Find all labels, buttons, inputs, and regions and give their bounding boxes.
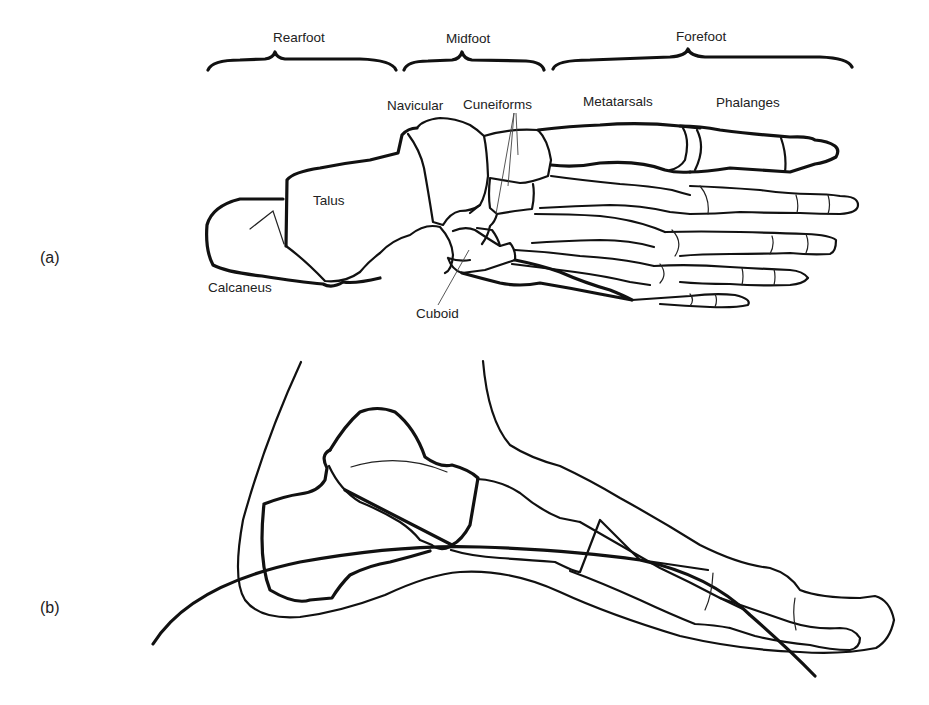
- bone-talus: [286, 128, 417, 246]
- metatarsal-5: [462, 260, 632, 300]
- foot-anatomy-diagram: [0, 0, 929, 705]
- brace-forefoot: [553, 49, 852, 69]
- brace-midfoot: [404, 52, 544, 70]
- metatarsal-2: [540, 176, 690, 214]
- phalanx-joint-lines: [705, 573, 796, 630]
- bone-metatarsals-lateral: [570, 522, 745, 628]
- foot-lateral-view: [153, 361, 894, 676]
- talus-subtalar-edge: [329, 466, 450, 549]
- leg-anterior-outline: [483, 361, 860, 598]
- bone-cuboid: [448, 228, 515, 273]
- bone-phalanges-lateral: [720, 598, 860, 650]
- ground-arc-line: [153, 547, 815, 676]
- phalanges-toe-1: [680, 126, 838, 172]
- leg-posterior-outline: [238, 362, 894, 653]
- metatarsal-3: [532, 214, 665, 247]
- calcaneus-inner-line: [250, 211, 284, 244]
- metatarsal-1: [538, 124, 700, 173]
- skeleton-dorsal-view: [207, 113, 858, 307]
- talus-lower-edge: [286, 226, 453, 281]
- bone-cuneiforms: [470, 130, 551, 246]
- phalanges-toe-3: [665, 232, 836, 257]
- brace-rearfoot: [208, 52, 396, 70]
- region-braces: [208, 49, 852, 70]
- phalanges-toe-2: [690, 186, 858, 214]
- leader-cuneiforms: [496, 113, 518, 214]
- phalanges-toe-4: [654, 265, 808, 285]
- bone-calcaneus: [207, 199, 380, 286]
